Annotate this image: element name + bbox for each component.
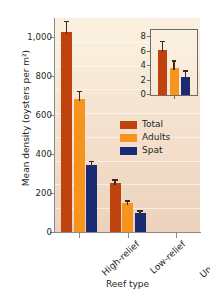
error-bar-cap [64,21,69,22]
error-bar-cap [112,179,117,180]
y-tick-label: 400 [35,149,52,159]
y-tick-label: 600 [35,110,52,120]
x-axis-title: Reef type [55,279,200,289]
inset-error-bar-cap [160,41,164,42]
legend-item: Adults [120,131,170,144]
y-axis-line [54,18,55,233]
bar [74,99,85,232]
inset-plot-area [151,30,197,95]
inset-y-tick-label: 4 [137,60,146,70]
inset-y-tick [147,65,150,66]
legend-swatch [120,134,137,142]
inset-error-bar-cap [172,60,176,61]
inset-bar [158,50,167,95]
inset-y-tick-label: 2 [137,75,146,85]
inset-y-tick-label: 6 [137,46,146,56]
inset-y-tick [147,94,150,95]
error-bar [79,91,80,101]
bar [110,183,121,232]
bar [61,32,72,232]
legend-swatch [120,121,137,129]
legend-label: Total [142,120,163,129]
x-category-label: Low-relief [148,239,187,276]
error-bar-cap [137,210,142,211]
error-bar [66,21,67,34]
bar [135,213,146,232]
inset-y-tick-label: 8 [137,31,146,41]
y-tick-label: 800 [35,71,52,81]
inset-x-tick [174,95,175,99]
x-tick [79,233,80,238]
x-category-label: Unrestored [198,239,210,280]
y-tick-label: 0 [46,227,52,237]
inset-y-tick [147,80,150,81]
x-tick [128,233,129,238]
inset-y-tick-label: 0 [137,89,146,99]
inset-bar [170,68,179,95]
y-tick-label: 200 [35,188,52,198]
legend-item: Total [120,118,170,131]
legend-item: Spat [120,144,170,157]
legend-label: Spat [142,146,162,155]
inset-y-tick [147,36,150,37]
inset-error-bar [162,41,163,52]
x-category-label: High-relief [100,239,141,278]
inset-error-bar [173,60,174,70]
inset-error-bar-cap [183,70,187,71]
error-bar-cap [89,161,94,162]
x-tick [176,233,177,238]
y-axis-title: Mean density (oysters per m²) [21,18,31,218]
error-bar-cap [125,200,130,201]
inset-chart [150,29,198,96]
inset-bar [181,77,190,95]
figure: 02004006008001,000 High-reliefLow-relief… [0,0,210,301]
inset-y-tick [147,51,150,52]
legend-label: Adults [142,133,170,142]
legend-swatch [120,147,137,155]
bar [86,165,97,232]
error-bar-cap [77,91,82,92]
bar [122,203,133,232]
legend: TotalAdultsSpat [120,118,170,157]
